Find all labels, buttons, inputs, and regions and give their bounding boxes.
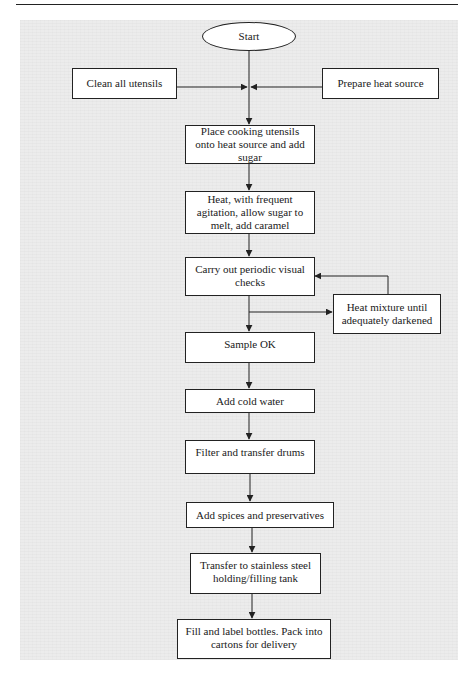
node-filter-transfer-label: Filter and transfer drums: [195, 446, 304, 459]
node-place-utensils: Place cooking utensils onto heat source …: [185, 125, 315, 164]
node-transfer-tank: Transfer to stainless steel holding/fill…: [190, 553, 321, 594]
node-heat-mixture: Heat mixture until adequately darkened: [333, 294, 441, 334]
node-filter-transfer: Filter and transfer drums: [185, 440, 315, 474]
node-clean-utensils: Clean all utensils: [72, 68, 177, 99]
node-transfer-tank-label: Transfer to stainless steel holding/fill…: [197, 559, 314, 585]
node-visual-checks: Carry out periodic visual checks: [185, 257, 315, 296]
node-fill-label: Fill and label bottles. Pack into carton…: [177, 619, 331, 659]
node-add-spices: Add spices and preservatives: [186, 502, 334, 528]
node-place-utensils-label: Place cooking utensils onto heat source …: [192, 125, 308, 164]
node-sample-ok-label: Sample OK: [224, 338, 276, 351]
node-add-water: Add cold water: [185, 389, 315, 413]
node-heat-agitate-label: Heat, with frequent agitation, allow sug…: [192, 193, 308, 232]
edge-heat-mixture-to-checks: [315, 276, 388, 294]
node-add-spices-label: Add spices and preservatives: [196, 509, 324, 522]
node-prepare-heat-label: Prepare heat source: [337, 77, 423, 90]
node-start: Start: [202, 22, 296, 51]
node-start-label: Start: [239, 30, 260, 43]
node-prepare-heat: Prepare heat source: [322, 68, 439, 99]
node-heat-agitate: Heat, with frequent agitation, allow sug…: [185, 191, 315, 234]
node-fill-label-label: Fill and label bottles. Pack into carton…: [184, 625, 324, 651]
node-add-water-label: Add cold water: [216, 395, 284, 408]
node-sample-ok: Sample OK: [185, 332, 315, 363]
node-visual-checks-label: Carry out periodic visual checks: [192, 263, 308, 289]
node-clean-utensils-label: Clean all utensils: [87, 77, 163, 90]
node-heat-mixture-label: Heat mixture until adequately darkened: [340, 301, 434, 327]
